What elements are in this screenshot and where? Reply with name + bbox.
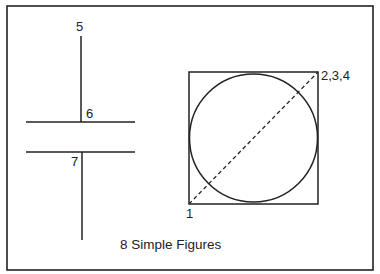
figure-caption: 8 Simple Figures bbox=[120, 237, 222, 252]
label-2-3-4: 2,3,4 bbox=[321, 68, 350, 83]
label-1: 1 bbox=[186, 206, 193, 221]
label-5: 5 bbox=[76, 19, 83, 34]
label-7: 7 bbox=[71, 154, 78, 169]
label-6: 6 bbox=[86, 106, 93, 121]
simple-figures-diagram: 5 6 7 1 2,3,4 8 Simple Figures bbox=[0, 0, 380, 274]
